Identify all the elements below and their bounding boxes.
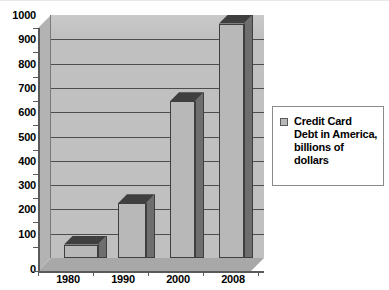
x-axis-labels: 1980 1990 2000 2008 (38, 273, 264, 290)
y-axis-label-300: 300 (0, 180, 36, 191)
y-axis-label-400: 400 (0, 155, 36, 166)
bar-1990-side (146, 194, 155, 258)
x-axis-label-2008: 2008 (221, 273, 245, 285)
bar-2008-side (244, 15, 253, 259)
y-axis-label-1000: 1000 (0, 10, 36, 21)
y-tick-1000 (33, 28, 39, 29)
chart-legend: Credit Card Debt in America, billions of… (272, 106, 384, 186)
y-tick-400 (33, 174, 39, 175)
bar-2008-front (219, 24, 244, 259)
y-tick-500 (33, 150, 39, 151)
y-tick-900 (33, 52, 39, 53)
plot-floor (38, 258, 264, 271)
y-axis-label-600: 600 (0, 107, 36, 118)
y-axis-label-700: 700 (0, 82, 36, 93)
x-axis-label-1980: 1980 (56, 273, 80, 285)
legend-swatch-icon (280, 118, 288, 126)
y-axis-label-500: 500 (0, 131, 36, 142)
y-axis-label-800: 800 (0, 58, 36, 69)
y-tick-300 (33, 198, 39, 199)
y-axis-label-200: 200 (0, 204, 36, 215)
bar-2000-front (170, 101, 195, 258)
bar-chart: 1000 900 800 700 600 500 400 300 200 100… (0, 0, 389, 290)
y-axis-label-0: 0 (0, 264, 36, 275)
y-tick-600 (33, 125, 39, 126)
legend-item-credit-card-debt: Credit Card Debt in America, billions of… (280, 115, 378, 167)
y-tick-200 (33, 222, 39, 223)
y-tick-800 (33, 77, 39, 78)
y-tick-100 (33, 247, 39, 248)
bar-2000 (170, 101, 195, 258)
y-axis-label-900: 900 (0, 34, 36, 45)
bar-1990-front (118, 203, 146, 258)
bar-1980 (64, 245, 98, 258)
legend-item-label: Credit Card Debt in America, billions of… (294, 115, 378, 167)
x-axis-label-2000: 2000 (166, 273, 190, 285)
plot-area (38, 15, 264, 271)
y-tick-700 (33, 101, 39, 102)
bar-1980-front (64, 245, 98, 258)
bar-1990 (118, 203, 146, 258)
bar-2000-side (195, 92, 204, 258)
y-axis-label-100: 100 (0, 228, 36, 239)
bar-2008 (219, 24, 244, 259)
x-axis-label-1990: 1990 (111, 273, 135, 285)
y-axis-labels: 1000 900 800 700 600 500 400 300 200 100… (0, 1, 36, 290)
